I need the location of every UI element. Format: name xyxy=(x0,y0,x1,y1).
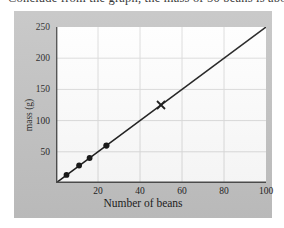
y-tick-label-250: 250 xyxy=(14,22,50,32)
y-tick-label-50: 50 xyxy=(14,147,50,157)
y-tick-label-150: 150 xyxy=(14,84,50,94)
estimate-cross-marker xyxy=(157,101,165,109)
data-point xyxy=(87,155,93,161)
data-point xyxy=(64,172,70,178)
figure-panel: mass (g) 250 200 150 100 50 20 40 60 80 … xyxy=(14,11,272,218)
scatter-plot-svg xyxy=(56,27,266,183)
page-top-text: Conclude from the graph, the mass of 50 … xyxy=(8,0,284,6)
data-point xyxy=(76,163,82,169)
data-point xyxy=(103,143,109,149)
y-axis-title: mass (g) xyxy=(24,99,34,131)
y-tick-label-200: 200 xyxy=(14,53,50,63)
x-tick-label-20: 20 xyxy=(93,186,103,196)
x-axis-title: Number of beans xyxy=(14,197,272,209)
x-tick-label-60: 60 xyxy=(177,186,187,196)
page-top-text-clip: Conclude from the graph, the mass of 50 … xyxy=(0,0,284,9)
x-tick-label-100: 100 xyxy=(259,186,273,196)
y-tick-label-100: 100 xyxy=(14,116,50,126)
x-tick-label-80: 80 xyxy=(219,186,229,196)
plot-area xyxy=(56,27,266,183)
x-tick-label-40: 40 xyxy=(135,186,145,196)
